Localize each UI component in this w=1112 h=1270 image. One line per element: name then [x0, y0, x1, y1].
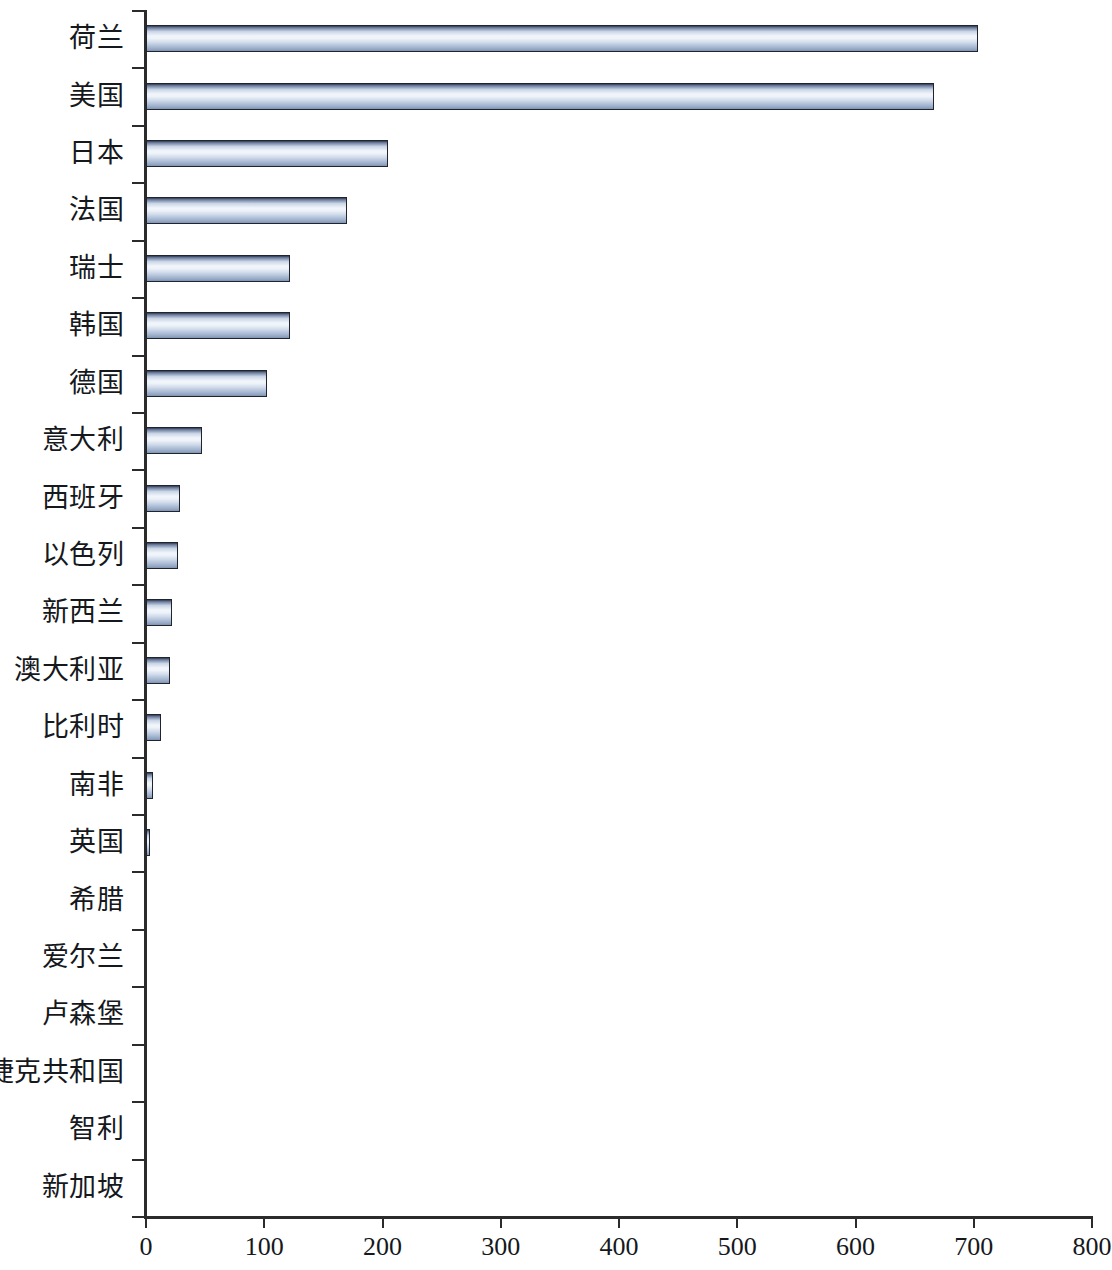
- y-axis-tick: [132, 1044, 144, 1046]
- y-axis-tick: [132, 1216, 144, 1218]
- bar: [146, 83, 934, 110]
- x-axis-tick: [1091, 1216, 1093, 1228]
- bar-slot: [146, 527, 178, 584]
- bar: [146, 657, 170, 684]
- bar-slot: [146, 240, 290, 297]
- bar-slot: [146, 67, 934, 124]
- y-axis-tick: [132, 125, 144, 127]
- x-axis-tick: [855, 1216, 857, 1228]
- x-axis-tick-label: 100: [245, 1234, 284, 1260]
- bar-slot: [146, 10, 978, 67]
- bar: [146, 255, 290, 282]
- bar-slot: [146, 182, 347, 239]
- bar-slot: [146, 757, 153, 814]
- category-label: 新西兰: [0, 584, 134, 641]
- y-axis-tick: [132, 1159, 144, 1161]
- category-label: 希腊: [0, 871, 134, 928]
- x-axis-tick: [500, 1216, 502, 1228]
- x-axis-tick-label: 700: [954, 1234, 993, 1260]
- x-axis-tick-label: 400: [600, 1234, 639, 1260]
- bar-slot: [146, 469, 180, 526]
- category-label: 德国: [0, 355, 134, 412]
- x-axis-tick: [736, 1216, 738, 1228]
- bar-slot: [146, 125, 388, 182]
- y-axis-tick: [132, 355, 144, 357]
- x-axis-tick-label: 500: [718, 1234, 757, 1260]
- y-axis-tick: [132, 814, 144, 816]
- y-axis-tick: [132, 469, 144, 471]
- plot-area: 0100200300400500600700800: [146, 10, 1092, 1216]
- y-axis-tick: [132, 929, 144, 931]
- bar-slot: [146, 412, 202, 469]
- y-axis-tick: [132, 182, 144, 184]
- category-label: 美国: [0, 67, 134, 124]
- y-axis-tick: [132, 67, 144, 69]
- category-label: 比利时: [0, 699, 134, 756]
- x-axis-tick: [145, 1216, 147, 1228]
- category-label: 西班牙: [0, 469, 134, 526]
- bar: [146, 25, 978, 52]
- category-label: 瑞士: [0, 240, 134, 297]
- y-axis-tick: [132, 584, 144, 586]
- y-axis-tick: [132, 412, 144, 414]
- bar: [146, 772, 153, 799]
- bar-slot: [146, 814, 150, 871]
- category-label: 爱尔兰: [0, 929, 134, 986]
- x-axis-tick: [618, 1216, 620, 1228]
- bar: [146, 312, 290, 339]
- category-label: 意大利: [0, 412, 134, 469]
- category-label: 澳大利亚: [0, 642, 134, 699]
- y-axis-tick: [132, 527, 144, 529]
- bar-slot: [146, 584, 172, 641]
- x-axis-tick: [382, 1216, 384, 1228]
- x-axis-tick-label: 200: [363, 1234, 402, 1260]
- bar: [146, 542, 178, 569]
- y-axis-tick: [132, 240, 144, 242]
- category-label: 韩国: [0, 297, 134, 354]
- bar-slot: [146, 699, 161, 756]
- y-axis-tick: [132, 699, 144, 701]
- bar: [146, 370, 267, 397]
- bar: [146, 714, 161, 741]
- category-label: 南非: [0, 756, 134, 813]
- bar: [146, 427, 202, 454]
- bar: [146, 599, 172, 626]
- category-axis-labels: 荷兰美国日本法国瑞士韩国德国意大利西班牙以色列新西兰澳大利亚比利时南非英国希腊爱…: [0, 10, 134, 1216]
- category-label: 日本: [0, 125, 134, 182]
- y-axis-tick: [132, 1101, 144, 1103]
- bar-slot: [146, 355, 267, 412]
- y-axis-tick: [132, 642, 144, 644]
- y-axis-tick: [132, 871, 144, 873]
- bar-slot: [146, 297, 290, 354]
- x-axis-tick-label: 0: [140, 1234, 153, 1260]
- category-label: 以色列: [0, 527, 134, 584]
- category-label: 捷克共和国: [0, 1044, 134, 1101]
- bar-slot: [146, 642, 170, 699]
- x-axis-tick: [973, 1216, 975, 1228]
- x-axis-tick-label: 300: [481, 1234, 520, 1260]
- category-label: 智利: [0, 1101, 134, 1158]
- bar: [146, 140, 388, 167]
- category-label: 荷兰: [0, 10, 134, 67]
- category-label: 英国: [0, 814, 134, 871]
- y-axis-tick: [132, 757, 144, 759]
- y-axis-tick: [132, 10, 144, 12]
- category-label: 卢森堡: [0, 986, 134, 1043]
- x-axis-tick-label: 600: [836, 1234, 875, 1260]
- category-label: 新加坡: [0, 1158, 134, 1215]
- y-axis-tick: [132, 297, 144, 299]
- x-axis-tick: [263, 1216, 265, 1228]
- x-axis-tick-label: 800: [1073, 1234, 1112, 1260]
- bar: [146, 197, 347, 224]
- bar: [146, 829, 150, 856]
- category-label: 法国: [0, 182, 134, 239]
- y-axis-tick: [132, 986, 144, 988]
- bar: [146, 485, 180, 512]
